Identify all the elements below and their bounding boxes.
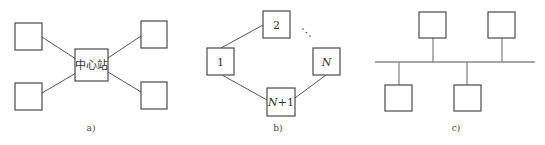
caption-a: a) xyxy=(87,123,96,133)
star-link xyxy=(108,72,141,92)
bus-node-bottom-2 xyxy=(454,85,481,111)
star-link xyxy=(42,73,76,93)
panel-a-star-topology: 中心站 a) xyxy=(15,21,167,133)
caption-b: b) xyxy=(273,123,282,133)
center-station-label: 中心站 xyxy=(75,58,108,72)
ring-node-n-plus-1-label: N+1 xyxy=(267,96,294,109)
star-link xyxy=(108,36,141,58)
ring-link xyxy=(222,75,267,100)
panel-c-bus-topology: c) xyxy=(375,12,535,133)
network-topology-figure: 中心站 a) 1 2 N N+1 b) c) xyxy=(0,0,545,145)
ring-link xyxy=(221,25,263,48)
star-link xyxy=(42,37,76,59)
ellipsis-dots xyxy=(302,28,311,37)
caption-c: c) xyxy=(452,123,461,133)
label-var: N xyxy=(267,96,278,109)
star-node-top-right xyxy=(141,21,167,48)
panel-b-ring-topology: 1 2 N N+1 b) xyxy=(207,11,340,133)
ring-link xyxy=(295,75,326,98)
label-suffix: +1 xyxy=(278,96,294,109)
bus-node-top-2 xyxy=(488,12,515,38)
ring-node-2-label: 2 xyxy=(273,19,280,32)
bus-node-bottom-1 xyxy=(385,85,412,111)
bus-node-top-1 xyxy=(419,12,446,38)
star-node-bottom-left xyxy=(15,83,42,110)
ring-node-n-label: N xyxy=(321,56,332,69)
star-node-bottom-right xyxy=(141,82,167,109)
ring-node-1-label: 1 xyxy=(217,56,224,69)
star-node-top-left xyxy=(15,23,42,50)
